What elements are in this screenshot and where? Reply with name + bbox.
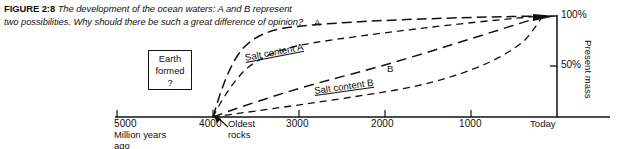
curve-label-a: A [314,17,320,28]
x-tick-label-4000: 4000 [199,118,222,129]
y-tick-label-50: 50% [561,59,581,70]
earth-formed-line3: ? [149,77,191,89]
y-tick-label-100: 100% [561,9,587,20]
x-tick-label-3000: 3000 [286,118,309,129]
curve-salt-content-a [213,16,540,117]
x-tick-label-today: Today [530,118,556,129]
x-axis-title: Million years ago [114,129,166,149]
earth-formed-box: Earth formed ? [148,50,192,90]
y-axis-title: Present mass [583,40,594,99]
figure-container: FIGURE 2:8 The development of the ocean … [0,0,626,149]
x-tick-label-2000: 2000 [371,118,394,129]
earth-formed-line1: Earth [149,53,191,65]
oldest-rocks-annotation: Oldest rocks [228,118,255,141]
chart-area: Earth formed ? Salt content A A Salt con… [0,0,626,149]
earth-formed-line2: formed [149,65,191,77]
curve-a [213,16,540,117]
curve-b [213,17,541,117]
curve-label-b: B [387,63,393,74]
x-tick-label-1000: 1000 [459,118,482,129]
convergence-arrowhead [533,14,556,21]
x-tick-label-5000: 5000 [114,118,137,129]
